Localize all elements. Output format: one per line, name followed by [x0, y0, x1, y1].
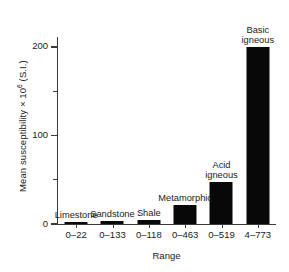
bar — [210, 182, 233, 224]
x-tick-mark — [76, 224, 77, 228]
y-axis-title-text: Mean susceptibility × 10 — [17, 88, 28, 192]
bar-label: Shale — [137, 208, 161, 218]
x-tick-label: 0–519 — [208, 229, 234, 240]
bar-chart-figure: Mean susceptibility × 106 (S.I.) 0100200… — [0, 0, 289, 272]
x-tick-mark — [149, 224, 150, 228]
bar-group: Basicigneous — [240, 38, 276, 224]
bar-label-line: Basic — [242, 25, 275, 35]
bar-label: Sandstone — [90, 209, 134, 219]
y-axis-title: Mean susceptibility × 106 (S.I.) — [16, 31, 28, 221]
y-tick-minor-50 — [53, 179, 58, 180]
y-axis-title-exponent: 6 — [16, 84, 23, 88]
bar-group: Limestone — [58, 38, 94, 224]
bar — [246, 47, 269, 224]
x-tick-label: 0–463 — [172, 229, 198, 240]
bar-label-line: igneous — [205, 170, 238, 180]
x-tick-mark — [113, 224, 114, 228]
x-tick-label: 0–22 — [66, 229, 87, 240]
bar-label-line: igneous — [242, 35, 275, 45]
y-axis-title-units: (S.I.) — [17, 60, 28, 84]
bar-group: Sandstone — [94, 38, 130, 224]
y-tick-label-200: 200 — [8, 41, 48, 51]
bar-label: Acidigneous — [205, 160, 238, 181]
y-tick-major-100 — [51, 135, 57, 136]
y-tick-label-100: 100 — [8, 130, 48, 140]
bar-label: Basicigneous — [242, 25, 275, 46]
bar-group: Acidigneous — [203, 38, 239, 224]
x-tick-label: 0–133 — [99, 229, 125, 240]
y-tick-major-200 — [51, 46, 57, 47]
bar — [174, 205, 197, 224]
x-axis-line — [57, 224, 276, 225]
bar-group: Metamorphic — [167, 38, 203, 224]
x-axis-title: Range — [57, 250, 276, 261]
x-tick-mark — [258, 224, 259, 228]
bar-label-line: Sandstone — [90, 209, 134, 219]
x-tick-mark — [222, 224, 223, 228]
x-tick-label: 0–118 — [136, 229, 162, 240]
y-tick-minor-150 — [53, 91, 58, 92]
x-tick-mark — [185, 224, 186, 228]
x-tick-label: 4–773 — [245, 229, 271, 240]
y-tick-label-0: 0 — [8, 219, 48, 229]
plot-area: LimestoneSandstoneShaleMetamorphicAcidig… — [58, 38, 276, 224]
bar-label-line: Acid — [205, 160, 238, 170]
bar-label-line: Shale — [137, 208, 161, 218]
